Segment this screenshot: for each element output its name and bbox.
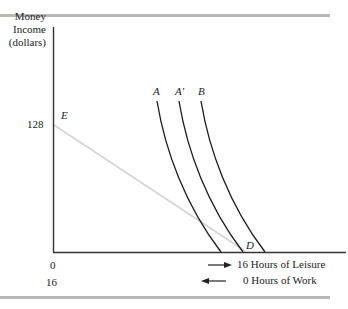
point-d-label: D <box>246 239 254 251</box>
y-tick-128: 128 <box>27 118 44 130</box>
x-origin-zero: 0 <box>50 259 56 271</box>
curve-a-prime-label: A' <box>175 85 184 97</box>
legend-work: 0 Hours of Work <box>243 274 317 286</box>
arrow-right-head-icon <box>224 262 232 268</box>
curve-a-label: A <box>153 85 160 97</box>
legend-leisure: 16 Hours of Leisure <box>237 258 325 270</box>
point-e-label: E <box>61 109 68 121</box>
curve-b-label: B <box>198 85 205 97</box>
budget-line <box>54 125 245 251</box>
curve-b <box>201 101 265 252</box>
arrow-left-head-icon <box>201 278 209 284</box>
x-origin-sixteen: 16 <box>46 276 57 288</box>
